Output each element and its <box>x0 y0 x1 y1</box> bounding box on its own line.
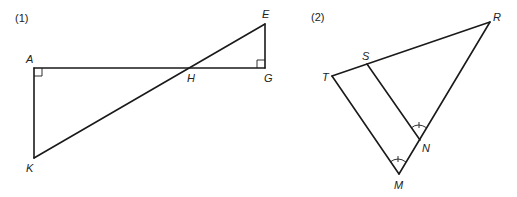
point-label-R: R <box>493 11 501 23</box>
segment-TM <box>332 76 399 174</box>
figure-1: (1) A H G E K <box>15 8 273 174</box>
diagram-canvas: (1) A H G E K (2) R S T N M <box>0 0 517 197</box>
right-angle-marker-A <box>34 68 42 76</box>
right-angle-marker-G <box>257 60 265 68</box>
point-label-H: H <box>187 72 195 84</box>
segment-TR <box>332 22 490 76</box>
point-label-T: T <box>322 71 330 83</box>
figure-1-label: (1) <box>15 12 28 24</box>
segment-SN <box>367 64 420 140</box>
point-label-E: E <box>262 8 270 20</box>
figure-2-label: (2) <box>311 11 324 23</box>
segment-KE <box>34 24 265 158</box>
point-label-M: M <box>394 179 404 191</box>
segment-MR <box>399 22 490 174</box>
point-label-G: G <box>264 72 273 84</box>
point-label-S: S <box>362 50 370 62</box>
point-label-N: N <box>422 142 430 154</box>
point-label-K: K <box>26 162 34 174</box>
point-label-A: A <box>25 53 33 65</box>
figure-2: (2) R S T N M <box>311 11 501 191</box>
